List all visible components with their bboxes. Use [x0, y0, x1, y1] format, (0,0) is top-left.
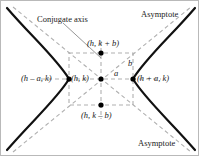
segment-b-label: b — [128, 59, 132, 68]
co-vertex-bottom-label: (h, k – b) — [81, 111, 112, 120]
co-vertex-bottom-point — [98, 102, 103, 107]
vertex-right-label: (h + a, k) — [137, 74, 169, 83]
vertex-left-label: (h – a, k) — [21, 74, 52, 83]
center-point — [98, 76, 103, 81]
asymptote-bottom-label: Asymptote — [138, 139, 175, 148]
co-vertex-top-label: (h, k + b) — [87, 39, 119, 48]
conjugate-axis-label: Conjugate axis — [37, 15, 88, 24]
hyperbola-figure: Conjugate axis Asymptote Asymptote (h – … — [0, 0, 199, 156]
asymptote-top-label: Asymptote — [141, 10, 178, 19]
segment-a-label: a — [114, 69, 118, 78]
center-label: (h, k) — [71, 74, 89, 83]
co-vertex-top-point — [98, 50, 103, 55]
vertex-right-point — [130, 76, 135, 81]
